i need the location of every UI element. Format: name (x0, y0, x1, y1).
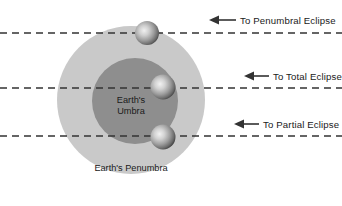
arrowhead-partial-icon (234, 120, 244, 129)
moon-penumbral-position (135, 21, 159, 45)
label-earths-penumbra: Earth's Penumbra (94, 163, 168, 173)
arrow-total-eclipse (244, 72, 269, 81)
eclipse-diagram: To Penumbral Eclipse To Total Eclipse To… (0, 0, 342, 206)
label-to-partial-eclipse: To Partial Eclipse (263, 119, 339, 130)
eclipse-diagram-canvas: To Penumbral Eclipse To Total Eclipse To… (0, 0, 342, 206)
label-earths-umbra-line1: Earth's (117, 95, 146, 105)
arrowhead-total-icon (244, 72, 254, 81)
moon-total-position (151, 75, 176, 100)
arrow-partial-eclipse (234, 120, 259, 129)
arrowhead-penumbral-icon (209, 16, 219, 25)
moon-partial-position (151, 125, 176, 150)
label-earths-umbra-line2: Umbra (117, 106, 145, 116)
label-to-total-eclipse: To Total Eclipse (273, 71, 342, 82)
arrow-penumbral-eclipse (209, 16, 236, 25)
label-to-penumbral-eclipse: To Penumbral Eclipse (240, 15, 336, 26)
